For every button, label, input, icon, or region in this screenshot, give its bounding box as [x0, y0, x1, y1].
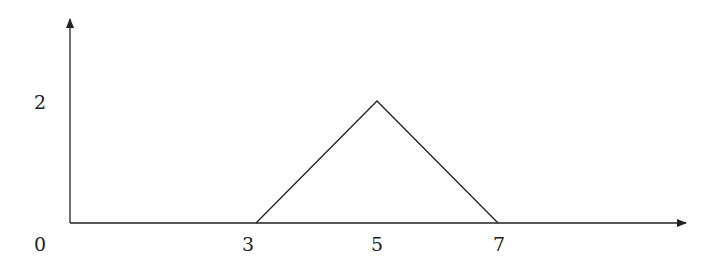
chart: 2 0 3 5 7: [0, 0, 713, 270]
y-tick-label-2: 2: [34, 93, 46, 112]
x-tick-label-5: 5: [371, 235, 383, 254]
chart-plot: [0, 0, 713, 270]
origin-label: 0: [34, 235, 46, 254]
x-tick-label-7: 7: [493, 235, 505, 254]
triangle-series-line: [256, 101, 498, 223]
x-tick-label-3: 3: [242, 235, 254, 254]
